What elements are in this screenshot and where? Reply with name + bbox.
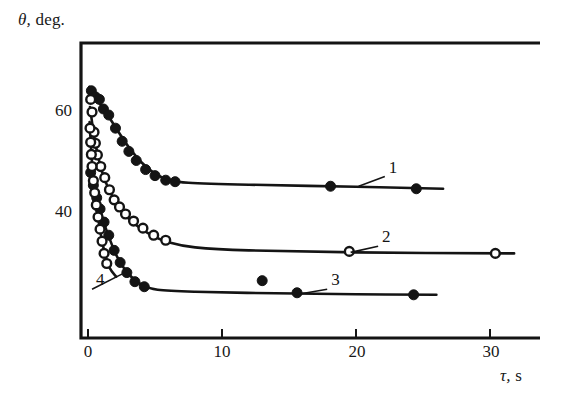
annotation-leader-lines [92,177,385,294]
data-point-4 [86,138,95,147]
data-point-4 [89,176,98,185]
curve-label-4: 4 [96,270,105,290]
data-point-4 [86,124,95,133]
data-point-3 [139,282,149,292]
data-point-2 [491,249,500,258]
data-point-1 [104,110,114,120]
data-point-1 [161,175,171,185]
data-point-4 [102,259,111,268]
y-tick-label-60: 60 [32,101,72,121]
x-tick-label-0: 0 [73,342,103,362]
data-point-4 [94,213,103,222]
data-point-3 [292,288,302,298]
figure-container: θ, deg. τ, s 60 40 0 10 20 30 1 2 3 4 [0,0,574,398]
curve-label-3: 3 [331,270,340,290]
data-point-2 [139,224,148,233]
data-point-markers [86,86,500,300]
data-point-2 [149,231,158,240]
x-axis-title-unit: s [515,366,522,385]
data-point-3 [130,277,140,287]
data-point-3 [109,245,119,255]
chart-canvas [0,0,574,398]
data-point-1 [326,181,336,191]
data-point-4 [96,225,105,234]
y-axis-title-unit: deg. [35,10,65,29]
data-point-1 [411,184,421,194]
y-axis-title: θ, deg. [18,10,65,30]
fit-curves [89,87,514,295]
data-point-3 [122,268,132,278]
data-point-4 [88,162,97,171]
curve-label-1: 1 [389,158,398,178]
x-tick-label-20: 20 [342,342,372,362]
data-point-2 [88,108,97,117]
data-point-4 [92,201,101,210]
data-point-1 [141,165,151,175]
y-axis-title-symbol: θ, [18,10,31,29]
data-point-2 [161,236,170,245]
data-point-4 [87,150,96,159]
data-point-2 [86,95,95,104]
data-point-1 [117,136,127,146]
data-point-4 [98,237,107,246]
data-point-4 [100,249,109,258]
data-point-1 [124,146,134,156]
x-tick-label-10: 10 [207,342,237,362]
data-point-1 [150,171,160,181]
data-point-3 [257,276,267,286]
data-point-2 [105,185,114,194]
x-axis-title: τ, s [500,366,522,386]
data-point-1 [131,155,141,165]
data-point-2 [96,162,105,171]
data-point-1 [110,123,120,133]
data-point-1 [170,177,180,187]
data-point-2 [121,210,130,219]
leader-line-1 [359,177,385,187]
data-point-4 [90,188,99,197]
x-axis-title-symbol: τ, [500,366,511,385]
data-point-3 [115,257,125,267]
y-tick-label-40: 40 [32,202,72,222]
data-point-3 [409,290,419,300]
curve-label-2: 2 [382,227,391,247]
data-point-2 [100,173,109,182]
data-point-2 [129,217,138,226]
x-tick-label-30: 30 [476,342,506,362]
